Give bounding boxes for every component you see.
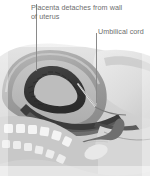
label-umbilical-cord: Umbilical cord [98,27,144,36]
label-placenta-detaches: Placenta detaches from wall of uterus [31,3,123,21]
anatomical-figure: Placenta detaches from wall of uterus Um… [0,0,150,176]
vignette-left [0,42,8,176]
vignette-top [0,42,150,47]
vignette-bottom [0,166,150,176]
vignette-right [142,42,150,176]
leader-line-umbilical-cord [96,33,97,103]
